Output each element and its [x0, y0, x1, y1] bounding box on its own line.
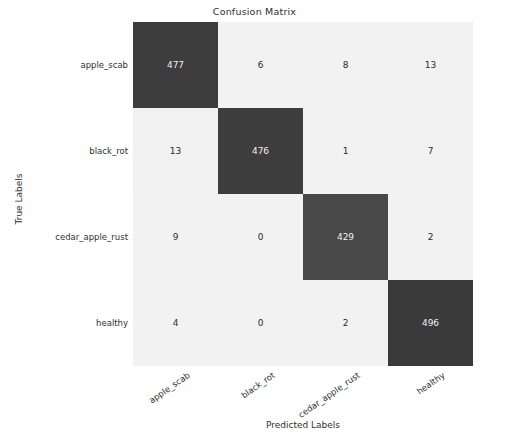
x-tick-label-1: black_rot: [239, 370, 276, 400]
x-tick-label-2: cedar_apple_rust: [296, 370, 361, 420]
cell-value: 13: [170, 147, 181, 156]
matrix-cell: 0: [218, 194, 303, 280]
matrix-cell: 429: [303, 194, 388, 280]
matrix-cell: 8: [303, 22, 388, 108]
cell-value: 9: [173, 233, 179, 242]
y-tick-label-0: apple_scab: [8, 60, 128, 70]
chart-title: Confusion Matrix: [0, 6, 509, 17]
cell-value: 2: [428, 233, 434, 242]
cell-value: 429: [337, 233, 354, 242]
matrix-cell: 9: [133, 194, 218, 280]
cell-value: 2: [343, 319, 349, 328]
y-tick-label-2: cedar_apple_rust: [8, 232, 128, 242]
y-tick-label-3: healthy: [8, 318, 128, 328]
cell-value: 496: [422, 319, 439, 328]
cell-value: 0: [258, 233, 264, 242]
heatmap-grid: 477 6 8 13 13 476 1 7 9 0 429 2 4 0 2 49…: [133, 22, 473, 366]
matrix-cell: 4: [133, 280, 218, 366]
matrix-cell: 7: [388, 108, 473, 194]
matrix-cell: 496: [388, 280, 473, 366]
cell-value: 7: [428, 147, 434, 156]
confusion-matrix-figure: Confusion Matrix True Labels apple_scab …: [0, 0, 509, 441]
cell-value: 4: [173, 319, 179, 328]
cell-value: 6: [258, 61, 264, 70]
matrix-cell: 13: [133, 108, 218, 194]
x-tick-label-3: healthy: [415, 370, 447, 397]
cell-value: 1: [343, 147, 349, 156]
cell-value: 8: [343, 61, 349, 70]
matrix-cell: 477: [133, 22, 218, 108]
matrix-cell: 2: [388, 194, 473, 280]
y-axis-tick-labels: apple_scab black_rot cedar_apple_rust he…: [0, 22, 128, 366]
cell-value: 0: [258, 319, 264, 328]
matrix-cell: 13: [388, 22, 473, 108]
matrix-cell: 2: [303, 280, 388, 366]
x-tick-label-0: apple_scab: [147, 370, 192, 405]
cell-value: 13: [425, 61, 436, 70]
matrix-cell: 6: [218, 22, 303, 108]
y-tick-label-1: black_rot: [8, 146, 128, 156]
x-axis-label: Predicted Labels: [133, 420, 473, 430]
cell-value: 476: [252, 147, 269, 156]
x-axis-tick-labels: apple_scab black_rot cedar_apple_rust he…: [133, 366, 473, 426]
matrix-cell: 1: [303, 108, 388, 194]
matrix-cell: 476: [218, 108, 303, 194]
matrix-cell: 0: [218, 280, 303, 366]
cell-value: 477: [167, 61, 184, 70]
